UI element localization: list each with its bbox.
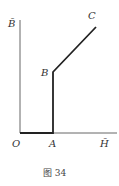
point-b-label: B <box>40 67 48 78</box>
curve-oabc <box>20 27 96 133</box>
point-c-label: C <box>88 10 96 21</box>
origin-label: O <box>12 138 20 149</box>
x-axis-label: H̄ <box>99 138 109 149</box>
figure-caption: 图 34 <box>43 168 67 178</box>
y-axis-label: B̄ <box>7 18 15 29</box>
point-a-label: A <box>48 138 56 149</box>
bh-curve-diagram: B̄ H̄ O A B C 图 34 <box>0 0 119 186</box>
